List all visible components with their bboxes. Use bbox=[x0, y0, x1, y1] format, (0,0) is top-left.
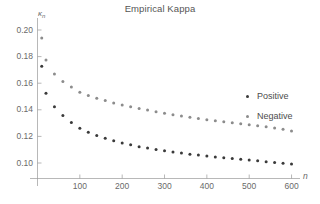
data-point bbox=[256, 159, 259, 162]
data-point bbox=[138, 145, 141, 148]
legend-item-negative[interactable]: Negative bbox=[246, 108, 318, 124]
x-tick-label: 200 bbox=[107, 181, 137, 191]
data-point bbox=[87, 131, 90, 134]
data-point bbox=[155, 148, 158, 151]
data-point bbox=[214, 119, 217, 122]
data-point bbox=[205, 154, 208, 157]
data-point bbox=[70, 121, 73, 124]
data-point bbox=[44, 58, 47, 61]
data-point bbox=[53, 105, 56, 108]
data-point bbox=[214, 155, 217, 158]
data-point bbox=[163, 112, 166, 115]
legend-label-negative: Negative bbox=[257, 111, 293, 121]
data-point bbox=[231, 121, 234, 124]
data-point bbox=[70, 85, 73, 88]
x-tick-label: 400 bbox=[192, 181, 222, 191]
data-point bbox=[95, 134, 98, 137]
x-tick-label: 500 bbox=[234, 181, 264, 191]
y-tick-label: 0.20 bbox=[5, 25, 33, 35]
legend-item-positive[interactable]: Positive bbox=[246, 88, 318, 104]
data-point bbox=[112, 101, 115, 104]
data-point bbox=[290, 163, 293, 166]
data-point bbox=[129, 143, 132, 146]
chart-figure: Empirical Kappa κn n 1002003004005006000… bbox=[0, 0, 320, 204]
data-point bbox=[40, 65, 43, 68]
data-point bbox=[188, 153, 191, 156]
data-point bbox=[95, 97, 98, 100]
data-point bbox=[239, 158, 242, 161]
y-tick-label: 0.14 bbox=[5, 104, 33, 114]
data-point bbox=[53, 72, 56, 75]
data-point bbox=[78, 127, 81, 130]
data-point bbox=[87, 94, 90, 97]
y-tick-label: 0.16 bbox=[5, 78, 33, 88]
data-point bbox=[104, 137, 107, 140]
x-tick-label: 100 bbox=[65, 181, 95, 191]
data-point bbox=[180, 114, 183, 117]
y-tick-label: 0.18 bbox=[5, 51, 33, 61]
data-point bbox=[282, 128, 285, 131]
y-tick-label: 0.12 bbox=[5, 131, 33, 141]
data-point bbox=[44, 92, 47, 95]
data-point bbox=[205, 118, 208, 121]
legend-marker-positive bbox=[246, 95, 249, 98]
legend-label-positive: Positive bbox=[257, 91, 289, 101]
data-point bbox=[138, 107, 141, 110]
data-point bbox=[146, 147, 149, 150]
x-tick-label: 300 bbox=[150, 181, 180, 191]
data-point bbox=[129, 105, 132, 108]
data-point bbox=[121, 142, 124, 145]
data-point bbox=[290, 130, 293, 133]
y-tick-label: 0.10 bbox=[5, 158, 33, 168]
data-point bbox=[248, 159, 251, 162]
data-point bbox=[180, 152, 183, 155]
data-point bbox=[78, 91, 81, 94]
data-point bbox=[231, 157, 234, 160]
data-point bbox=[239, 122, 242, 125]
data-point bbox=[121, 103, 124, 106]
data-point bbox=[112, 139, 115, 142]
data-point bbox=[222, 156, 225, 159]
data-point bbox=[197, 154, 200, 157]
data-point bbox=[61, 114, 64, 117]
data-point bbox=[61, 80, 64, 83]
x-tick-label: 600 bbox=[277, 181, 307, 191]
data-point bbox=[188, 116, 191, 119]
chart-legend: Positive Negative bbox=[246, 88, 318, 128]
data-point bbox=[155, 110, 158, 113]
data-point bbox=[146, 109, 149, 112]
data-point bbox=[265, 160, 268, 163]
data-point bbox=[282, 162, 285, 165]
data-point bbox=[171, 113, 174, 116]
legend-marker-negative bbox=[246, 115, 249, 118]
data-point bbox=[104, 99, 107, 102]
data-point bbox=[40, 36, 43, 39]
data-point bbox=[197, 117, 200, 120]
data-point bbox=[171, 150, 174, 153]
data-point bbox=[273, 161, 276, 164]
data-point bbox=[163, 149, 166, 152]
data-point bbox=[222, 120, 225, 123]
